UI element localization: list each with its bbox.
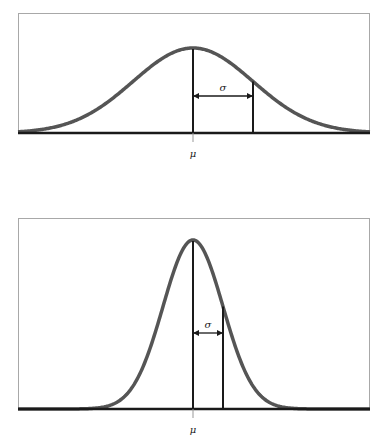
top-mean-label: μ <box>190 148 197 159</box>
normal-distribution-figure: σ μ σ μ <box>0 0 386 445</box>
bottom-mean-label: μ <box>190 424 197 435</box>
bottom-sigma-label: σ <box>205 319 213 330</box>
top-sigma-label: σ <box>220 82 228 93</box>
bottom-panel: σ μ <box>18 219 370 436</box>
top-panel: σ μ <box>18 14 370 160</box>
